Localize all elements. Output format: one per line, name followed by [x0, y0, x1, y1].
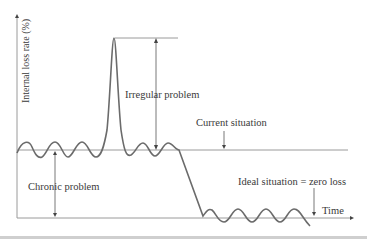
chronic-problem-label: Chronic problem [28, 182, 99, 193]
loss-diagram [0, 0, 367, 240]
arrow-down-icon [222, 145, 226, 149]
x-axis-label: Time [322, 206, 344, 217]
arrow-down-icon [53, 213, 57, 217]
current-situation-label: Current situation [196, 118, 267, 129]
loss-curve [17, 38, 310, 226]
irregular-problem-label: Irregular problem [125, 90, 199, 101]
arrow-up-icon [53, 151, 57, 155]
bottom-divider [0, 236, 367, 239]
y-axis-label: Internal loss rate (%) [21, 19, 31, 103]
arrow-up-icon [154, 38, 158, 43]
x-axis-arrow-icon [350, 216, 354, 220]
arrow-down-icon [154, 145, 158, 150]
ideal-situation-label: Ideal situation = zero loss [238, 177, 346, 188]
arrow-down-icon [312, 212, 316, 216]
